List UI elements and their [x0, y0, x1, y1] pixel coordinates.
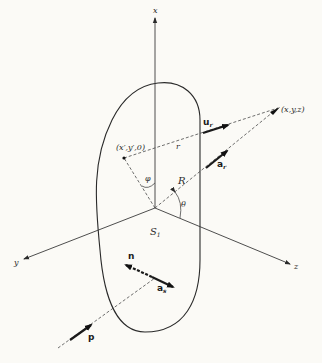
- R-line: [155, 108, 278, 208]
- R-label: R: [177, 175, 186, 186]
- x-axis-label: x: [153, 6, 158, 15]
- source-radius-line: [124, 158, 155, 208]
- r-label: r: [176, 142, 181, 151]
- theta-label: θ: [181, 200, 186, 209]
- a-r-label: ar: [217, 159, 227, 170]
- field-point-label: (x,y,z): [281, 105, 305, 114]
- y-axis: [24, 208, 155, 259]
- u-r-label: ur: [203, 117, 213, 128]
- y-axis-label: y: [13, 258, 19, 267]
- z-axis-label: z: [293, 262, 299, 271]
- phi-label: φ: [145, 174, 151, 183]
- diagram-canvas: x y z (x′,y′,0) (x,y,z) r R φ θ S1 ur ar…: [0, 0, 322, 363]
- z-axis: [155, 208, 290, 264]
- field-point-arrowhead: [270, 107, 280, 115]
- surface-label: S1: [150, 226, 161, 238]
- theta-arc: [175, 192, 181, 218]
- r-line: [124, 108, 278, 158]
- source-point-dot: [122, 156, 125, 159]
- source-point-label: (x′,y′,0): [116, 143, 145, 152]
- n-label: n: [128, 251, 134, 261]
- phi-arc: [142, 183, 155, 187]
- n-vector: [126, 265, 152, 277]
- p-label: p: [88, 332, 95, 342]
